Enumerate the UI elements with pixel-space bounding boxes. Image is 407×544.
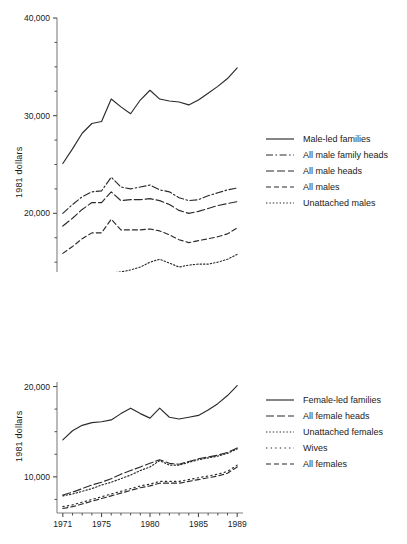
legend-item: Female-led families (265, 392, 383, 408)
legend-line-swatch-icon (265, 198, 295, 208)
legend-item: All female heads (265, 408, 383, 424)
legend-item-label: Unattached females (303, 427, 383, 437)
svg-text:20,000: 20,000 (24, 208, 50, 218)
legend-item: Male-led families (265, 131, 388, 147)
legend-item-label: All males (303, 182, 340, 192)
svg-text:20,000: 20,000 (24, 382, 50, 392)
legend-line-swatch-icon (265, 166, 295, 176)
legend-item-label: Female-led families (303, 395, 381, 405)
legend-line-swatch-icon (265, 150, 295, 160)
svg-text:1980: 1980 (141, 519, 160, 529)
legend-line-swatch-icon (265, 395, 295, 405)
legend-line-swatch-icon (265, 459, 295, 469)
legend-item: All male heads (265, 163, 388, 179)
legend-line-swatch-icon (265, 411, 295, 421)
legend-line-swatch-icon (265, 427, 295, 437)
series-line (63, 192, 237, 226)
legend-line-swatch-icon (265, 182, 295, 192)
legend-item: Wives (265, 440, 383, 456)
series-line (63, 386, 237, 440)
legend-item-label: All male family heads (303, 150, 388, 160)
series-line (63, 467, 237, 509)
svg-text:1989: 1989 (228, 519, 247, 529)
legend-item-label: All females (303, 459, 347, 469)
legend-line-swatch-icon (265, 443, 295, 453)
svg-text:1985: 1985 (189, 519, 208, 529)
male-chart-legend: Male-led familiesAll male family headsAl… (265, 131, 388, 211)
legend-item: All males (265, 179, 388, 195)
legend-line-swatch-icon (265, 134, 295, 144)
series-line (63, 448, 237, 495)
svg-text:1971: 1971 (53, 519, 72, 529)
legend-item: All male family heads (265, 147, 388, 163)
svg-text:40,000: 40,000 (24, 13, 50, 23)
legend-item-label: Wives (303, 443, 328, 453)
legend-item: Unattached females (265, 424, 383, 440)
svg-text:1975: 1975 (92, 519, 111, 529)
svg-text:30,000: 30,000 (24, 111, 50, 121)
series-line (63, 254, 237, 272)
male-income-chart: 1981 dollars 10,00020,00030,00040,000197… (0, 0, 407, 272)
legend-item-label: All male heads (303, 166, 362, 176)
legend-item: Unattached males (265, 195, 388, 211)
female-income-chart: 1981 dollars 10,00020,000197119751980198… (0, 272, 407, 544)
series-line (63, 219, 237, 253)
legend-item-label: Unattached males (303, 198, 376, 208)
legend-item-label: Male-led families (303, 134, 371, 144)
series-line (63, 68, 237, 164)
legend-item: All females (265, 456, 383, 472)
legend-item-label: All female heads (303, 411, 370, 421)
svg-text:10,000: 10,000 (24, 472, 50, 482)
female-chart-legend: Female-led familiesAll female headsUnatt… (265, 392, 383, 472)
